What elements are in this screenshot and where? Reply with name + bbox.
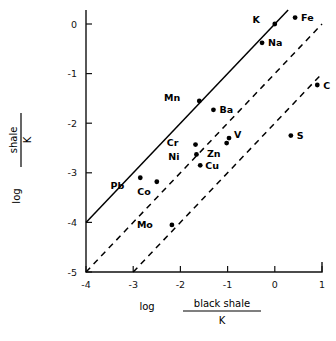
y-axis-title-denominator: K	[22, 136, 33, 143]
x-tick-label: -2	[176, 279, 185, 290]
y-tick-label: -3	[68, 167, 77, 178]
x-axis-tick-labels: -4-3-2-101	[81, 279, 325, 290]
scatter-plot-figure: -4-3-2-101 0-1-2-3-4-5 FeKNaCMnBaSVCrZnN…	[0, 0, 336, 341]
data-point-k: K	[252, 14, 277, 26]
x-tick-label: 0	[272, 279, 278, 290]
point-marker-pb	[138, 175, 143, 180]
point-label-ni: Ni	[168, 151, 179, 162]
point-marker-c	[315, 83, 320, 88]
point-marker-mn	[197, 98, 202, 103]
point-label-zn: Zn	[207, 148, 221, 159]
x-axis-title-numerator: black shale	[194, 298, 250, 309]
y-tick-label: -5	[68, 267, 77, 278]
y-tick-label: -1	[68, 68, 77, 79]
chart-canvas: -4-3-2-101 0-1-2-3-4-5 FeKNaCMnBaSVCrZnN…	[0, 0, 336, 341]
y-axis-title: log shale K	[8, 113, 33, 204]
point-label-co: Co	[137, 186, 151, 197]
point-label-cu: Cu	[205, 160, 219, 171]
point-marker-s	[288, 133, 293, 138]
y-axis-title-numerator: shale	[8, 127, 19, 154]
data-point-s: S	[288, 130, 303, 141]
x-tick-label: -4	[81, 279, 90, 290]
x-axis-title-denominator: K	[219, 315, 226, 326]
x-axis-title-log: log	[139, 301, 154, 312]
point-label-na: Na	[268, 37, 282, 48]
point-label-v: V	[234, 129, 242, 140]
data-point-cr: Cr	[167, 137, 198, 148]
point-marker-cu	[198, 163, 203, 168]
point-label-s: S	[297, 130, 304, 141]
point-label-k: K	[252, 14, 260, 25]
y-axis-tick-labels: 0-1-2-3-4-5	[68, 19, 77, 278]
x-axis-title: log black shale K	[139, 298, 261, 326]
data-point-c: C	[315, 80, 330, 91]
reference-lines	[86, 10, 322, 272]
y-tick-label: 0	[71, 19, 77, 30]
point-label-fe: Fe	[301, 12, 314, 23]
data-point-co: Co	[137, 179, 159, 196]
point-marker-cr	[193, 142, 198, 147]
y-axis-title-log: log	[11, 188, 22, 203]
x-tick-label: 1	[319, 279, 325, 290]
point-label-mo: Mo	[137, 219, 153, 230]
data-point-na: Na	[260, 37, 283, 48]
point-label-mn: Mn	[164, 92, 180, 103]
point-label-ba: Ba	[219, 104, 233, 115]
data-point-ni: Ni	[168, 151, 199, 162]
data-point-fe: Fe	[293, 12, 314, 23]
point-marker-ba	[211, 107, 216, 112]
point-marker-zn	[224, 141, 229, 146]
data-point-zn: Zn	[207, 141, 229, 159]
x-tick-label: -1	[223, 279, 232, 290]
point-label-pb: Pb	[111, 180, 125, 191]
data-points: FeKNaCMnBaSVCrZnNiCuPbCoMo	[111, 12, 331, 230]
point-marker-mo	[170, 222, 175, 227]
x-axis-ticks	[86, 266, 322, 272]
data-point-cu: Cu	[198, 160, 219, 171]
point-label-c: C	[323, 80, 330, 91]
plot-frame	[86, 10, 322, 272]
point-marker-na	[260, 40, 265, 45]
offset-minus-one-line	[86, 24, 322, 272]
y-axis-ticks	[86, 24, 92, 272]
data-point-mo: Mo	[137, 219, 174, 230]
y-tick-label: -2	[68, 118, 77, 129]
point-marker-fe	[293, 15, 298, 20]
data-point-mn: Mn	[164, 92, 202, 103]
point-marker-ni	[194, 152, 199, 157]
data-point-v: V	[227, 129, 242, 140]
point-marker-co	[154, 179, 159, 184]
point-marker-k	[272, 22, 277, 27]
x-tick-label: -3	[128, 279, 137, 290]
y-tick-label: -4	[68, 217, 77, 228]
point-marker-v	[227, 136, 232, 141]
point-label-cr: Cr	[167, 137, 179, 148]
data-point-ba: Ba	[211, 104, 233, 115]
